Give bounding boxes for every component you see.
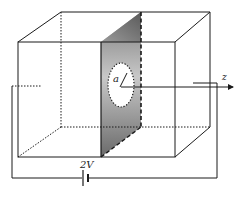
radius-label: a <box>113 73 119 84</box>
capacitor-diagram: a z <box>0 0 244 213</box>
battery-voltage-label: 2V <box>79 159 95 170</box>
battery-icon <box>83 170 88 186</box>
z-axis-label: z <box>221 72 227 82</box>
circular-hole: a <box>108 63 134 107</box>
